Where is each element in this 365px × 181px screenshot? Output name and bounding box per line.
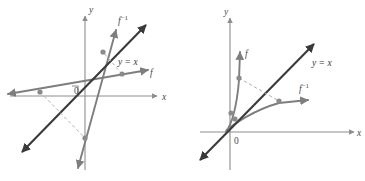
point-marker bbox=[232, 116, 237, 121]
identity-label-right: y = x bbox=[311, 58, 332, 68]
origin-label-right: 0 bbox=[234, 136, 239, 146]
y-axis-label-right: y bbox=[223, 7, 229, 17]
origin-label-left: 0 bbox=[74, 86, 79, 96]
dashed-connector-right-1 bbox=[239, 78, 279, 101]
curve-label-f-inverse-left: f−1 bbox=[118, 14, 129, 26]
point-marker bbox=[37, 89, 42, 94]
curve-f-inverse-left bbox=[78, 30, 116, 168]
curve-label-f-inverse-right: f−1 bbox=[299, 82, 310, 94]
panel-right-curve-inverse-pair: y x 0 f f−1 y = x bbox=[182, 0, 365, 181]
inverse-function-figure: y x 0 f−1 f y = x bbox=[0, 0, 365, 181]
x-axis-label-left: x bbox=[161, 92, 167, 102]
point-marker bbox=[236, 75, 241, 80]
point-marker bbox=[82, 135, 87, 140]
curve-label-f-left: f bbox=[150, 68, 154, 78]
x-axis-label-right: x bbox=[356, 128, 362, 138]
panel-left-linear-inverse-pair: y x 0 f−1 f y = x bbox=[0, 0, 182, 181]
identity-label-left: y = x bbox=[117, 57, 138, 67]
f-inverse-exponent-right: −1 bbox=[302, 82, 310, 90]
point-marker bbox=[276, 98, 281, 103]
f-inverse-exponent-left: −1 bbox=[121, 14, 129, 22]
y-axis-label-left: y bbox=[88, 5, 94, 15]
point-marker bbox=[228, 110, 233, 115]
curve-label-f-right: f bbox=[245, 49, 249, 59]
point-marker bbox=[119, 71, 124, 76]
curve-f-inverse-right bbox=[227, 100, 308, 130]
point-marker bbox=[100, 49, 105, 54]
dashed-connector-left-1 bbox=[40, 92, 85, 138]
